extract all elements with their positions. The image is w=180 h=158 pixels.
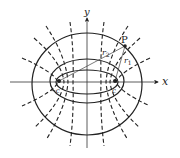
hyperbola-left-inner xyxy=(70,22,73,146)
r2-label: r2 xyxy=(102,48,110,58)
focus-left-dot xyxy=(57,79,61,83)
hyperbola-right-inner xyxy=(101,22,104,146)
r2-line xyxy=(59,46,125,81)
point-P-label: P xyxy=(121,34,128,45)
hyperbolas xyxy=(22,22,150,146)
focus-left-label: −c xyxy=(50,87,60,95)
focus-right-label: c xyxy=(112,87,116,95)
r1-label: r1 xyxy=(124,56,132,66)
elliptic-coordinates-diagram: x y P r2 r1 −c c xyxy=(0,0,180,158)
focus-right-dot xyxy=(113,79,117,83)
hyperbola-left-far xyxy=(46,26,68,140)
x-axis-label: x xyxy=(162,75,169,88)
y-axis-label: y xyxy=(83,6,90,17)
